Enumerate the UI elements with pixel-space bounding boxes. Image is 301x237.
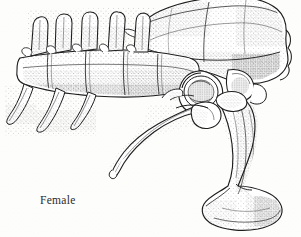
figure-illustration-plate: Female — [0, 0, 301, 237]
specimen-sex-label: Female — [40, 194, 76, 207]
